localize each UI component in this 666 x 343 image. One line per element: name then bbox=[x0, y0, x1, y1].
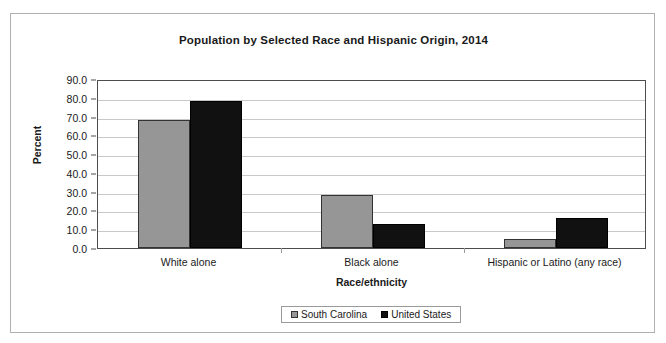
legend-entry-south-carolina: South Carolina bbox=[291, 309, 367, 320]
gridline bbox=[98, 100, 645, 101]
y-axis-tick-mark bbox=[91, 136, 96, 137]
bar-united-states-hispanic-or-latino-any-race bbox=[556, 218, 608, 248]
legend-entry-united-states: United States bbox=[381, 309, 451, 320]
y-axis-tick-mark bbox=[91, 80, 96, 81]
legend-label: South Carolina bbox=[301, 309, 367, 320]
y-axis-tick-label: 40.0 bbox=[67, 168, 87, 180]
y-axis-tick-mark bbox=[91, 230, 96, 231]
y-axis-tick-label: 10.0 bbox=[67, 224, 87, 236]
y-axis-tick-mark bbox=[91, 192, 96, 193]
y-axis-tick-label: 20.0 bbox=[67, 205, 87, 217]
x-axis-category-separator bbox=[464, 248, 465, 253]
y-axis-tick-label: 0.0 bbox=[72, 243, 87, 255]
bar-south-carolina-hispanic-or-latino-any-race bbox=[504, 239, 556, 248]
chart-legend: South CarolinaUnited States bbox=[281, 306, 461, 323]
bar-united-states-white-alone bbox=[190, 101, 242, 248]
x-axis-tick-label: Black alone bbox=[344, 256, 398, 268]
y-axis-tick-mark bbox=[91, 211, 96, 212]
x-axis-tick-label: White alone bbox=[161, 256, 216, 268]
x-axis-tick-label: Hispanic or Latino (any race) bbox=[487, 256, 621, 268]
x-axis-tick-labels: White aloneBlack aloneHispanic or Latino… bbox=[97, 256, 646, 272]
bar-south-carolina-black-alone bbox=[321, 195, 373, 248]
bar-united-states-black-alone bbox=[373, 224, 425, 248]
plot-area bbox=[97, 80, 646, 249]
x-axis-category-separator bbox=[281, 248, 282, 253]
y-axis-tick-labels: 0.010.020.030.040.050.060.070.080.090.0 bbox=[11, 80, 93, 249]
y-axis-tick-mark bbox=[91, 155, 96, 156]
y-axis-tick-label: 80.0 bbox=[67, 93, 87, 105]
y-axis-tick-mark bbox=[91, 173, 96, 174]
y-axis-tick-label: 50.0 bbox=[67, 149, 87, 161]
y-axis-tick-mark bbox=[91, 117, 96, 118]
bar-south-carolina-white-alone bbox=[138, 120, 190, 248]
chart-title: Population by Selected Race and Hispanic… bbox=[11, 34, 656, 46]
legend-swatch-icon bbox=[291, 311, 298, 318]
legend-swatch-icon bbox=[381, 311, 388, 318]
y-axis-tick-mark bbox=[91, 98, 96, 99]
y-axis-tick-label: 90.0 bbox=[67, 74, 87, 86]
y-axis-tick-label: 30.0 bbox=[67, 187, 87, 199]
x-axis-title: Race/ethnicity bbox=[97, 276, 646, 288]
y-axis-tick-label: 60.0 bbox=[67, 130, 87, 142]
y-axis-tick-label: 70.0 bbox=[67, 112, 87, 124]
y-axis-tick-mark bbox=[91, 249, 96, 250]
chart-figure: Population by Selected Race and Hispanic… bbox=[10, 13, 655, 333]
legend-label: United States bbox=[391, 309, 451, 320]
